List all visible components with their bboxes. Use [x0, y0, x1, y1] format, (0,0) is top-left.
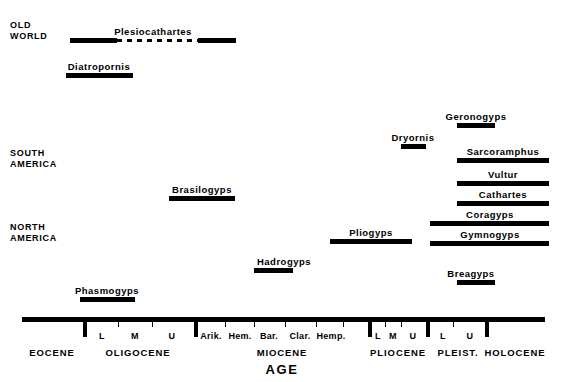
- stratigraphic-range-chart: OLD WORLDSOUTH AMERICANORTH AMERICA Ples…: [0, 0, 561, 382]
- axis-tick-major: [485, 321, 489, 337]
- axis-tick-minor: [152, 322, 153, 327]
- axis-epoch-label-pliocene: PLIOCENE: [370, 347, 426, 358]
- axis-tick-major: [194, 321, 198, 337]
- range-bar-dashed: [117, 39, 198, 42]
- axis-epoch-label-miocene: MIOCENE: [257, 347, 308, 358]
- range-bar-solid: [457, 158, 549, 163]
- axis-substage-label: L: [99, 331, 105, 341]
- axis-title: AGE: [266, 362, 299, 377]
- range-bar-solid: [70, 38, 117, 43]
- axis-tick-major: [368, 321, 372, 337]
- taxon-label-sarcoramphus: Sarcoramphus: [467, 146, 540, 157]
- axis-tick-minor: [285, 322, 286, 327]
- axis-tick-minor: [385, 322, 386, 327]
- axis-substage-label: M: [389, 331, 397, 341]
- axis-epoch-label-holocene: HOLOCENE: [484, 347, 545, 358]
- taxon-range-sarcoramphus: Sarcoramphus: [0, 158, 561, 163]
- time-axis: LMUArik.Hem.Bar.Clar.Hemp.LMULUEOCENEOLI…: [0, 0, 561, 382]
- range-bar-solid: [66, 73, 133, 78]
- taxon-label-gymnogyps: Gymnogyps: [460, 229, 519, 240]
- axis-tick-major: [426, 321, 430, 337]
- axis-substage-label: Hemp.: [316, 331, 345, 341]
- taxon-range-plesiocathartes: Plesiocathartes: [0, 38, 561, 43]
- axis-substage-label: U: [467, 331, 474, 341]
- range-bar-solid: [401, 144, 426, 149]
- taxon-range-coragyps: Coragyps: [0, 221, 561, 226]
- taxon-label-cathartes: Cathartes: [479, 189, 527, 200]
- taxon-label-hadrogyps: Hadrogyps: [257, 256, 311, 267]
- axis-tick-major: [83, 321, 87, 337]
- axis-substage-label: U: [169, 331, 176, 341]
- axis-tick-minor: [225, 322, 226, 327]
- taxon-label-coragyps: Coragyps: [466, 209, 514, 220]
- range-bar-solid: [80, 297, 135, 302]
- taxon-label-geronogyps: Geronogyps: [446, 111, 507, 122]
- axis-tick-minor: [254, 322, 255, 327]
- range-bar-solid: [457, 123, 495, 128]
- axis-tick-minor: [401, 322, 402, 327]
- axis-epoch-label-pleist: PLEIST.: [437, 347, 478, 358]
- axis-tick-minor: [453, 322, 454, 327]
- axis-substage-label: Arik.: [200, 331, 222, 341]
- range-bar-solid: [457, 280, 495, 285]
- axis-substage-label: Clar.: [289, 331, 310, 341]
- range-bar-solid: [430, 241, 549, 246]
- taxon-label-phasmogyps: Phasmogyps: [75, 285, 139, 296]
- taxon-range-phasmogyps: Phasmogyps: [0, 297, 561, 302]
- axis-substage-label: L: [440, 331, 446, 341]
- taxon-label-diatropornis: Diatropornis: [68, 61, 130, 72]
- range-bar-solid: [457, 181, 549, 186]
- taxon-label-dryornis: Dryornis: [391, 132, 434, 143]
- range-bar-solid: [430, 221, 549, 226]
- range-bar-solid: [198, 38, 236, 43]
- range-bar-solid: [254, 268, 293, 273]
- axis-substage-label: U: [410, 331, 417, 341]
- taxon-range-cathartes: Cathartes: [0, 201, 561, 206]
- axis-baseline: [22, 317, 545, 322]
- axis-substage-label: Bar.: [260, 331, 278, 341]
- axis-tick-minor: [316, 322, 317, 327]
- taxon-label-brasilogyps: Brasilogyps: [172, 184, 232, 195]
- taxon-label-vultur: Vultur: [488, 169, 518, 180]
- axis-epoch-label-oligocene: OLIGOCENE: [105, 347, 170, 358]
- taxon-label-breagyps: Breagyps: [447, 268, 494, 279]
- axis-tick-minor: [118, 322, 119, 327]
- axis-substage-label: L: [375, 331, 381, 341]
- taxon-label-pliogyps: Pliogyps: [349, 227, 393, 238]
- taxon-range-diatropornis: Diatropornis: [0, 73, 561, 78]
- taxon-range-gymnogyps: Gymnogyps: [0, 241, 561, 246]
- taxon-range-vultur: Vultur: [0, 181, 561, 186]
- axis-substage-label: M: [131, 331, 139, 341]
- axis-epoch-label-eocene: EOCENE: [29, 347, 75, 358]
- range-bar-solid: [457, 201, 549, 206]
- taxon-label-plesiocathartes: Plesiocathartes: [114, 26, 192, 37]
- axis-tick-minor: [343, 322, 344, 327]
- taxon-range-geronogyps: Geronogyps: [0, 123, 561, 128]
- axis-substage-label: Hem.: [228, 331, 251, 341]
